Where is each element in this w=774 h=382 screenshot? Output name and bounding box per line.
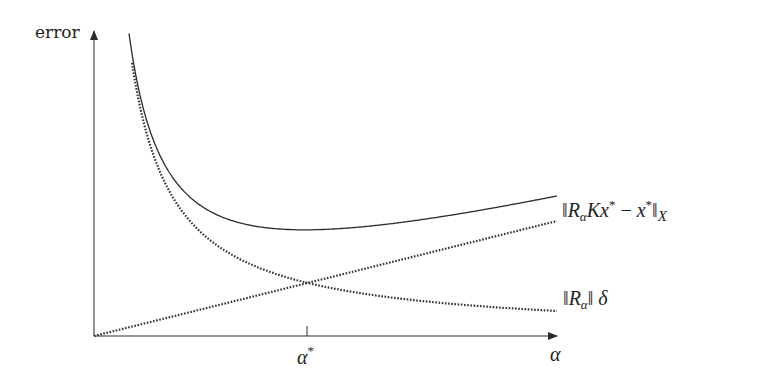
norm-close: ‖	[588, 287, 594, 309]
data-error-dotted-curve	[132, 63, 557, 311]
operator-R: R	[567, 199, 580, 221]
delta-symbol: δ	[598, 287, 608, 309]
star-superscript: *	[308, 343, 315, 358]
alpha-star-label: α*	[297, 343, 314, 368]
total-error-curve	[129, 33, 557, 230]
approximation-error-dotted-line	[94, 221, 557, 336]
minus-sign: −	[620, 199, 631, 221]
variable-x: x	[636, 199, 646, 221]
data-error-label: ‖Rα‖δ	[563, 287, 608, 312]
error-tradeoff-diagram: error α α* ‖RαKx*−x*‖X ‖Rα‖δ	[0, 0, 774, 382]
variable-x: x	[599, 199, 609, 221]
y-axis-label: error	[35, 22, 81, 42]
alpha-symbol: α	[297, 346, 308, 368]
space-subscript-X: X	[657, 208, 668, 224]
operator-R: R	[568, 287, 581, 309]
x-axis-label: α	[550, 343, 561, 365]
star-superscript: *	[609, 197, 616, 212]
total-error-label: ‖RαKx*−x*‖X	[562, 197, 668, 224]
